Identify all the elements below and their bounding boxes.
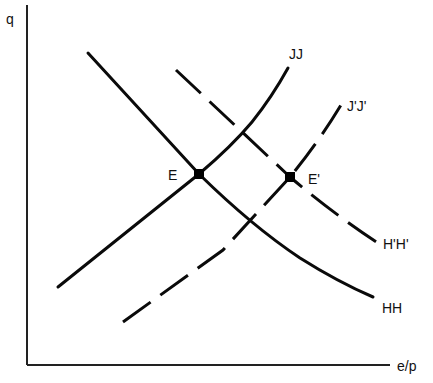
- axes: q e/p: [6, 5, 417, 374]
- curve-hh: [88, 53, 373, 297]
- point-e-marker: [194, 169, 204, 179]
- curve-hphp-label: H'H': [383, 236, 409, 252]
- x-axis-label: e/p: [397, 358, 417, 374]
- curve-hh-label: HH: [382, 300, 402, 316]
- curve-jpjp: [123, 105, 341, 322]
- curve-hphp: [176, 70, 378, 243]
- point-ep-label: E': [308, 171, 320, 187]
- y-axis-label: q: [6, 11, 14, 27]
- point-ep-marker: [285, 172, 295, 182]
- curve-jj-label: JJ: [289, 46, 303, 62]
- curve-jpjp-label: J'J': [347, 98, 366, 114]
- equilibrium-diagram: q e/p HH JJ H'H' J'J' E E': [0, 0, 433, 383]
- point-e-label: E: [168, 167, 177, 183]
